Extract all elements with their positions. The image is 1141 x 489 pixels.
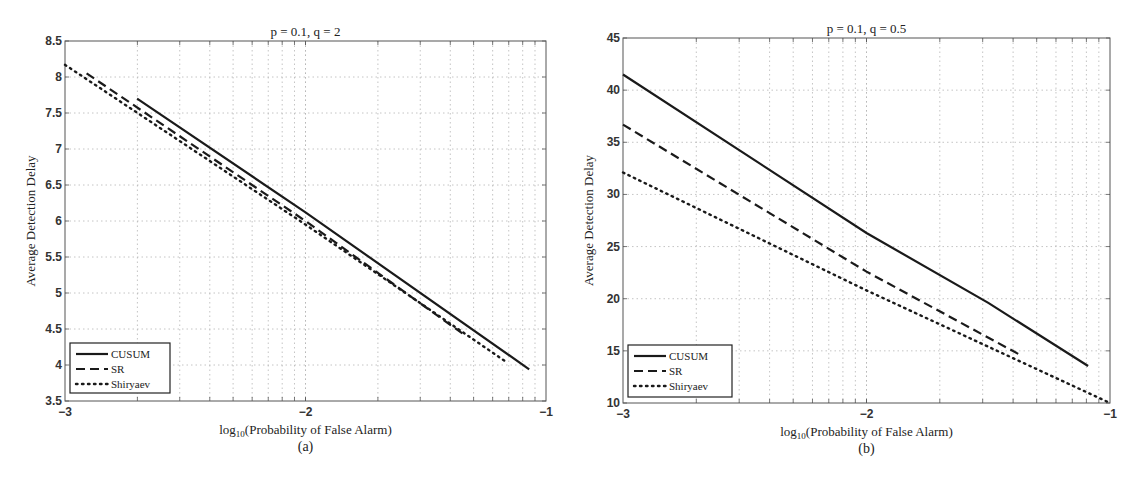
y-tick-label: 25 (607, 240, 621, 254)
y-tick-label: 7 (55, 142, 62, 156)
y-tick-label: 8.5 (45, 34, 62, 48)
chart-panel-a: 3.544.555.566.577.588.5−3−2−1p = 0.1, q … (23, 24, 553, 455)
series-sr (623, 125, 1022, 357)
y-tick-label: 5.5 (45, 250, 62, 264)
x-tick-label: −2 (299, 405, 313, 419)
y-tick-label: 6.5 (45, 178, 62, 192)
y-tick-label: 35 (607, 135, 621, 149)
legend: CUSUMSRShiryaev (628, 345, 732, 397)
y-tick-label: 5 (55, 286, 62, 300)
y-tick-label: 45 (607, 31, 621, 45)
y-tick-label: 20 (607, 292, 621, 306)
legend-label: SR (669, 365, 683, 377)
x-tick-label: −1 (539, 405, 553, 419)
figure: 3.544.555.566.577.588.5−3−2−1p = 0.1, q … (0, 0, 1141, 489)
legend-label: CUSUM (111, 348, 150, 360)
panel-caption: (b) (858, 441, 875, 457)
legend-label: CUSUM (669, 350, 708, 362)
y-tick-label: 8 (55, 70, 62, 84)
chart-title: p = 0.1, q = 2 (271, 24, 341, 39)
x-axis-label: log10(Probability of False Alarm) (780, 424, 953, 441)
legend-label: Shiryaev (111, 378, 151, 390)
x-tick-label: −2 (860, 407, 874, 421)
chart-panel-b: 1015202530354045−3−2−1p = 0.1, q = 0.5lo… (581, 21, 1117, 457)
y-axis-label: Average Detection Delay (581, 154, 596, 286)
x-tick-label: −3 (58, 405, 72, 419)
x-tick-label: −1 (1103, 407, 1117, 421)
y-tick-label: 15 (607, 344, 621, 358)
series-shiryaev (65, 65, 508, 363)
y-tick-label: 6 (55, 214, 62, 228)
x-tick-label: −3 (616, 407, 630, 421)
x-axis-label: log10(Probability of False Alarm) (219, 422, 392, 439)
legend-label: SR (111, 363, 125, 375)
chart-title: p = 0.1, q = 0.5 (827, 21, 907, 36)
y-tick-label: 7.5 (45, 106, 62, 120)
y-tick-label: 30 (607, 187, 621, 201)
panel-caption: (a) (298, 439, 314, 455)
y-tick-label: 4 (55, 358, 62, 372)
legend-label: Shiryaev (669, 380, 709, 392)
y-axis-label: Average Detection Delay (23, 155, 38, 287)
y-tick-label: 4.5 (45, 322, 62, 336)
legend: CUSUMSRShiryaev (70, 343, 170, 393)
y-tick-label: 40 (607, 83, 621, 97)
